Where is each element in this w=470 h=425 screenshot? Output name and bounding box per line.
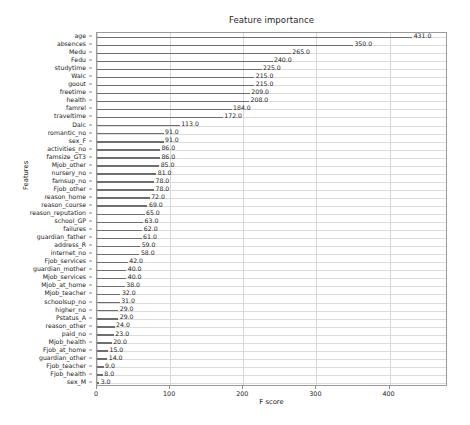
y-tick-label: Fjob_teacher	[46, 362, 86, 370]
y-tick-label: paid_no	[62, 330, 86, 338]
x-tick-mark	[315, 386, 316, 389]
bar-value-label: 24.0	[116, 321, 130, 329]
y-gridline	[97, 303, 446, 304]
y-tick-label: Mjob_other	[52, 161, 86, 169]
y-tick-label: schoolsup_no	[44, 297, 86, 305]
bar-value-label: 32.0	[122, 289, 136, 297]
bar-value-label: 69.0	[149, 201, 163, 209]
y-tick-mark	[89, 132, 92, 133]
bar	[97, 222, 143, 223]
y-tick-label: reason_home	[44, 193, 86, 201]
y-tick-mark	[89, 325, 92, 326]
bar	[97, 85, 254, 86]
y-tick-mark	[89, 60, 92, 61]
bar-value-label: 8.0	[104, 370, 114, 378]
y-tick-mark	[89, 245, 92, 246]
y-tick-label: age	[74, 32, 86, 40]
bar-value-label: 86.0	[161, 144, 175, 152]
y-gridline	[97, 367, 446, 368]
bar	[97, 101, 249, 102]
bar	[97, 157, 160, 158]
y-tick-mark	[89, 124, 92, 125]
bar-value-label: 431.0	[414, 32, 432, 40]
bar	[97, 173, 156, 174]
bar	[97, 342, 112, 343]
bar-value-label: 78.0	[156, 185, 170, 193]
bar-value-label: 40.0	[128, 265, 142, 273]
y-gridline	[97, 319, 446, 320]
y-tick-label: address_R	[54, 241, 86, 249]
y-tick-label: Mjob_at_home	[41, 281, 86, 289]
y-tick-label: absences	[57, 40, 86, 48]
y-tick-mark	[89, 148, 92, 149]
y-tick-label: sex_M	[67, 378, 86, 386]
bar	[97, 286, 125, 287]
y-tick-mark	[89, 357, 92, 358]
y-tick-mark	[89, 156, 92, 157]
y-tick-label: Walc	[71, 72, 86, 80]
bar-value-label: 29.0	[120, 313, 134, 321]
y-tick-mark	[89, 52, 92, 53]
y-tick-label: Dalc	[72, 120, 86, 128]
y-tick-mark	[89, 277, 92, 278]
y-tick-label: higher_no	[55, 305, 86, 313]
bar	[97, 382, 99, 383]
y-tick-label: traveltime	[54, 112, 86, 120]
bar-value-label: 225.0	[263, 64, 281, 72]
y-gridline	[97, 270, 446, 271]
bar-value-label: 172.0	[224, 112, 242, 120]
bar	[97, 165, 159, 166]
y-gridline	[97, 383, 446, 384]
bar-value-label: 215.0	[256, 80, 274, 88]
y-tick-label: reason_course	[41, 201, 86, 209]
y-tick-label: reason_other	[45, 321, 86, 329]
bar-value-label: 61.0	[143, 233, 157, 241]
bar	[97, 133, 164, 134]
y-gridline	[97, 286, 446, 287]
bar-value-label: 113.0	[181, 120, 199, 128]
y-gridline	[97, 335, 446, 336]
y-gridline	[97, 351, 446, 352]
y-tick-label: nursery_no	[52, 169, 86, 177]
bar-value-label: 85.0	[161, 161, 175, 169]
bar	[97, 262, 128, 263]
bar-value-label: 58.0	[141, 249, 155, 257]
bar	[97, 302, 120, 303]
y-tick-label: goout	[68, 80, 86, 88]
bar-value-label: 31.0	[121, 297, 135, 305]
y-tick-label: guardian_other	[39, 354, 86, 362]
y-tick-mark	[89, 180, 92, 181]
chart-title: Feature importance	[96, 15, 447, 25]
bar	[97, 69, 262, 70]
bar	[97, 350, 108, 351]
y-tick-label: health	[66, 96, 86, 104]
bar	[97, 53, 291, 54]
y-tick-mark	[89, 172, 92, 173]
bar-value-label: 59.0	[142, 241, 156, 249]
y-tick-mark	[89, 333, 92, 334]
y-tick-label: school_GP	[55, 217, 86, 225]
y-gridline	[97, 278, 446, 279]
y-axis-tick-labels: ageabsencesMeduFedustudytimeWalcgooutfre…	[0, 32, 92, 386]
bar	[97, 254, 139, 255]
y-tick-label: guardian_father	[37, 233, 86, 241]
y-tick-mark	[89, 68, 92, 69]
x-tick-label: 100	[163, 390, 175, 398]
bar	[97, 181, 154, 182]
bar	[97, 45, 353, 46]
bar-value-label: 62.0	[144, 225, 158, 233]
y-tick-label: Fjob_services	[45, 257, 86, 265]
y-tick-mark	[89, 349, 92, 350]
bar	[97, 149, 160, 150]
y-tick-label: Fedu	[71, 56, 86, 64]
y-gridline	[97, 343, 446, 344]
y-tick-label: freetime	[60, 88, 86, 96]
y-tick-mark	[89, 164, 92, 165]
y-gridline	[97, 294, 446, 295]
bar-value-label: 215.0	[256, 72, 274, 80]
x-tick-label: 300	[309, 390, 321, 398]
bar	[97, 246, 140, 247]
y-tick-mark	[89, 188, 92, 189]
y-tick-label: Fjob_other	[53, 185, 86, 193]
y-tick-label: Fjob_at_home	[43, 346, 86, 354]
